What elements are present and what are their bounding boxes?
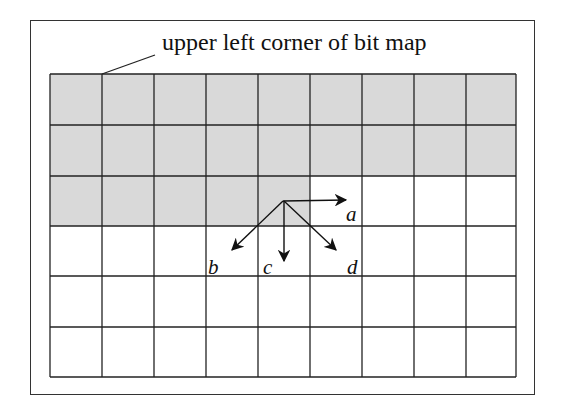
arrow-label-c: c bbox=[263, 255, 272, 280]
bitmap-diagram bbox=[0, 0, 566, 406]
caption-leader-line bbox=[102, 55, 155, 74]
arrow-label-d: d bbox=[347, 255, 358, 280]
caption-text: upper left corner of bit map bbox=[162, 29, 427, 56]
arrow-a bbox=[283, 200, 346, 201]
arrow-label-a: a bbox=[346, 202, 357, 227]
shaded-region bbox=[50, 74, 516, 226]
arrow-label-b: b bbox=[208, 255, 219, 280]
